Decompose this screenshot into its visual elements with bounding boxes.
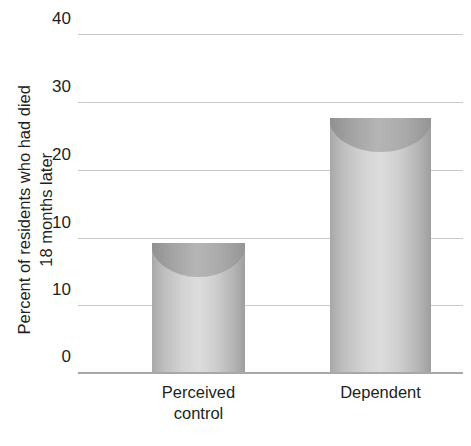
y-tick-label-10-upper: 10 bbox=[52, 213, 71, 233]
gridline-0-baseline: 0 bbox=[78, 372, 463, 374]
y-tick-label-30: 30 bbox=[52, 77, 71, 97]
x-category-label-perceived-control: Perceived control bbox=[152, 382, 245, 425]
bar-perceived-control bbox=[152, 243, 245, 372]
y-tick-label-40: 40 bbox=[52, 9, 71, 29]
gridline-30: 30 bbox=[78, 102, 463, 103]
x-category-label-perceived-control-line-1: Perceived bbox=[162, 383, 235, 401]
plot-area: 40 30 20 10 10 0 Perceived control Depen… bbox=[78, 0, 463, 380]
bar-dependent bbox=[330, 118, 431, 372]
gridline-40: 40 bbox=[78, 34, 463, 35]
bar-chart: Percent of residents who had died 18 mon… bbox=[0, 0, 471, 446]
bar-cap-dependent bbox=[330, 118, 431, 152]
x-category-label-perceived-control-line-2: control bbox=[152, 403, 245, 424]
x-category-label-dependent-line-1: Dependent bbox=[340, 383, 421, 401]
y-tick-label-20: 20 bbox=[52, 145, 71, 165]
y-axis-title-line-1: Percent of residents who had died bbox=[15, 85, 33, 335]
bar-cap-perceived-control bbox=[152, 243, 245, 277]
y-tick-label-0: 0 bbox=[62, 347, 71, 367]
y-tick-label-10-lower: 10 bbox=[52, 280, 71, 300]
x-category-label-dependent: Dependent bbox=[324, 382, 437, 403]
